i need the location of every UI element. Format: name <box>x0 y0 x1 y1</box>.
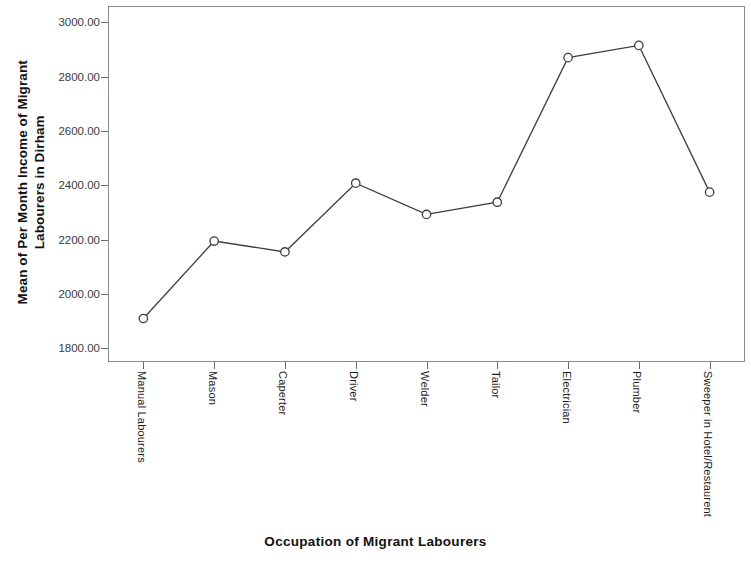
x-axis-tick-mark <box>427 362 428 369</box>
y-axis-tick-mark <box>101 294 108 295</box>
x-axis-tick-mark <box>497 362 498 369</box>
y-axis-tick-label: 2200.00 <box>36 234 100 246</box>
y-axis-tick-label: 3000.00 <box>36 16 100 28</box>
x-axis-category-label: Driver <box>348 371 360 402</box>
y-axis-tick-mark <box>101 240 108 241</box>
x-axis-title: Occupation of Migrant Labourers <box>0 534 751 549</box>
x-axis-tick-mark <box>285 362 286 369</box>
x-axis-category-label: Mason <box>207 371 219 405</box>
line-chart: Mean of Per Month Income of Migrant Labo… <box>0 0 751 562</box>
y-axis-tick-label: 2800.00 <box>36 71 100 83</box>
y-axis-tick-mark <box>101 348 108 349</box>
y-axis-tick-mark <box>101 185 108 186</box>
y-axis-tick-label: 2600.00 <box>36 125 100 137</box>
y-axis-tick-mark <box>101 77 108 78</box>
y-axis-tick-label: 1800.00 <box>36 342 100 354</box>
x-axis-category-label: Sweeper in Hotel/Restaurent <box>702 371 714 517</box>
y-axis-tick-mark <box>101 22 108 23</box>
y-axis-title-line-1: Mean of Per Month Income of Migrant <box>14 60 31 304</box>
x-axis-tick-mark <box>214 362 215 369</box>
x-axis-category-label: Plumber <box>631 371 643 413</box>
x-axis-tick-mark <box>639 362 640 369</box>
x-axis-tick-mark <box>143 362 144 369</box>
x-axis-category-label: Welder <box>419 371 431 407</box>
x-axis-tick-mark <box>710 362 711 369</box>
x-axis-tick-mark <box>568 362 569 369</box>
x-axis-category-label: Caperter <box>277 371 289 415</box>
plot-area <box>108 6 745 362</box>
y-axis-tick-mark <box>101 131 108 132</box>
y-axis-tick-labels: 1800.002000.002200.002400.002600.002800.… <box>34 0 100 562</box>
x-axis-category-label: Electrician <box>561 371 573 424</box>
y-axis-tick-label: 2000.00 <box>36 288 100 300</box>
y-axis-tick-label: 2400.00 <box>36 179 100 191</box>
x-axis-tick-mark <box>356 362 357 369</box>
x-axis-category-label: Tailor <box>490 371 502 399</box>
x-axis-category-label: Manual Labourers <box>136 371 148 463</box>
